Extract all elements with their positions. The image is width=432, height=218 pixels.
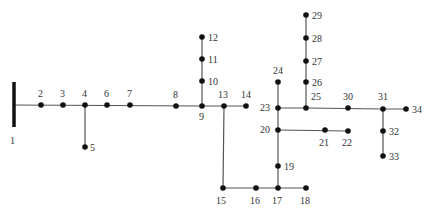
node-4 — [82, 102, 88, 108]
node-11 — [199, 56, 205, 62]
node-label-19: 19 — [284, 161, 294, 172]
node-32 — [380, 128, 386, 134]
line-segment — [223, 106, 306, 188]
node-label-13: 13 — [218, 89, 228, 100]
node-9 — [199, 103, 205, 109]
node-31 — [380, 106, 386, 112]
network-diagram: 1 23456789101112131415161718192021222324… — [0, 0, 432, 218]
node-26 — [303, 79, 309, 85]
node-label-21: 21 — [319, 137, 329, 148]
node-24 — [275, 79, 281, 85]
node-label-28: 28 — [312, 33, 322, 44]
node-label-9: 9 — [199, 111, 204, 122]
node-2 — [38, 102, 44, 108]
node-20 — [275, 127, 281, 133]
node-label-3: 3 — [60, 88, 65, 99]
node-17 — [275, 185, 281, 191]
node-3 — [60, 102, 66, 108]
node-6 — [104, 102, 110, 108]
node-label-34: 34 — [412, 104, 422, 115]
node-34 — [403, 106, 409, 112]
node-label-27: 27 — [312, 56, 322, 67]
node-label-18: 18 — [300, 195, 310, 206]
node-29 — [303, 12, 309, 18]
node-5 — [82, 144, 88, 150]
node-label-5: 5 — [90, 142, 95, 153]
node-13 — [221, 103, 227, 109]
node-label-10: 10 — [208, 76, 218, 87]
node-label-29: 29 — [312, 10, 322, 21]
node-label-25: 25 — [311, 91, 321, 102]
node-7 — [127, 102, 133, 108]
node-16 — [253, 185, 259, 191]
node-22 — [345, 128, 351, 134]
node-23 — [275, 105, 281, 111]
node-14 — [243, 103, 249, 109]
node-8 — [173, 103, 179, 109]
node-label-20: 20 — [260, 124, 270, 135]
node-label-7: 7 — [127, 88, 132, 99]
node-label-22: 22 — [342, 137, 352, 148]
node-19 — [275, 163, 281, 169]
node-10 — [199, 78, 205, 84]
node-30 — [345, 105, 351, 111]
node-label-31: 31 — [378, 91, 388, 102]
node-label-17: 17 — [272, 195, 282, 206]
node-label-32: 32 — [389, 126, 399, 137]
node-label-24: 24 — [273, 65, 283, 76]
node-label-8: 8 — [173, 89, 178, 100]
node-label-1: 1 — [10, 135, 15, 146]
node-label-33: 33 — [389, 151, 399, 162]
node-label-26: 26 — [312, 77, 322, 88]
node-label-12: 12 — [208, 32, 218, 43]
node-label-6: 6 — [104, 88, 109, 99]
node-25 — [303, 105, 309, 111]
node-28 — [303, 35, 309, 41]
line-segment — [278, 130, 348, 131]
node-label-23: 23 — [260, 102, 270, 113]
node-33 — [380, 153, 386, 159]
node-18 — [303, 185, 309, 191]
node-21 — [322, 127, 328, 133]
node-label-11: 11 — [208, 54, 218, 65]
node-label-15: 15 — [216, 195, 226, 206]
node-27 — [303, 58, 309, 64]
node-label-30: 30 — [343, 91, 353, 102]
node-15 — [220, 185, 226, 191]
line-segment — [278, 108, 406, 109]
node-label-4: 4 — [82, 88, 87, 99]
node-label-14: 14 — [241, 89, 251, 100]
node-12 — [199, 34, 205, 40]
node-label-2: 2 — [38, 88, 43, 99]
node-label-16: 16 — [250, 195, 260, 206]
labels-layer: 2345678910111213141516171819202122232425… — [38, 10, 422, 206]
